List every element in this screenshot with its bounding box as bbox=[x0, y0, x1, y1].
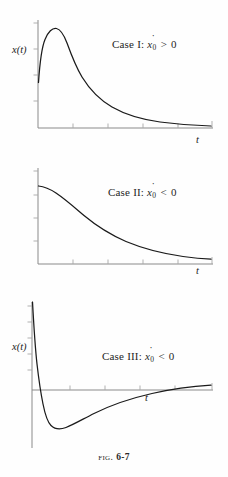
case-label-2-subscript: 0 bbox=[152, 191, 156, 200]
plot-panel-case-1: x(t) bbox=[0, 6, 228, 150]
case-label-3-variable: ˙x0 bbox=[145, 350, 157, 362]
plot-svg-case-2 bbox=[0, 156, 228, 282]
case-label-3-rhs: 0 bbox=[169, 350, 175, 362]
case-label-1-variable: ˙x0 bbox=[147, 38, 159, 50]
plot-svg-case-3 bbox=[0, 296, 228, 452]
figure-caption-number: 6-7 bbox=[113, 452, 130, 462]
case-label-1-subscript: 0 bbox=[153, 43, 157, 52]
case-label-3: Case III: ˙x0 < 0 bbox=[102, 350, 174, 364]
y-axis-ticks bbox=[28, 306, 33, 370]
plot-panel-case-3: x(t) bbox=[0, 296, 228, 452]
case-label-2-variable: ˙x0 bbox=[147, 186, 159, 198]
case-label-2-prefix: Case II: bbox=[108, 186, 144, 198]
case-label-3-prefix: Case III: bbox=[102, 350, 142, 362]
case-label-1-rhs: 0 bbox=[171, 38, 177, 50]
figure-page: x(t) t Case I: ˙x0 > 0 bbox=[0, 0, 228, 477]
x-axis-label-case-1: t bbox=[196, 134, 199, 145]
case-label-2: Case II: ˙x0 < 0 bbox=[108, 186, 177, 200]
case-label-1-relation: > bbox=[160, 38, 168, 50]
plot-panel-case-2: x(t) bbox=[0, 156, 228, 282]
case-label-3-subscript: 0 bbox=[150, 355, 154, 364]
y-axis-label-case-1: x(t) bbox=[12, 44, 27, 55]
case-label-2-relation: < bbox=[160, 186, 168, 198]
case-label-2-rhs: 0 bbox=[171, 186, 177, 198]
y-axis-ticks bbox=[34, 171, 39, 241]
x-axis-label-case-3: t bbox=[145, 392, 148, 403]
figure-caption-prefix: Fig. bbox=[98, 452, 113, 462]
figure-caption: Fig.6-7 bbox=[0, 452, 228, 463]
cropped-running-head bbox=[104, 0, 226, 4]
y-axis-ticks bbox=[34, 23, 39, 101]
case-label-1-prefix: Case I: bbox=[112, 38, 144, 50]
case-label-3-relation: < bbox=[157, 350, 165, 362]
case-label-1: Case I: ˙x0 > 0 bbox=[112, 38, 177, 52]
curve-case-3 bbox=[33, 302, 212, 429]
plot-svg-case-1 bbox=[0, 6, 228, 150]
x-axis-label-case-2: t bbox=[196, 265, 199, 276]
